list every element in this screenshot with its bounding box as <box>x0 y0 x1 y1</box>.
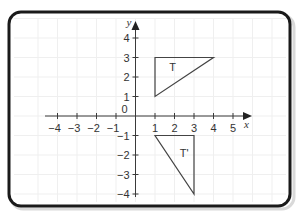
triangle-label-t: T <box>169 61 176 73</box>
y-tick-label: −2 <box>117 149 130 161</box>
x-axis-label: x <box>243 118 249 130</box>
y-tick-label: 3 <box>123 52 129 64</box>
x-tick-label: 4 <box>210 122 216 134</box>
x-tick-label: 3 <box>191 122 197 134</box>
x-tick-label: −3 <box>68 122 81 134</box>
x-tick-label: 2 <box>171 122 177 134</box>
frame-border <box>9 12 290 206</box>
y-tick-label: −1 <box>117 130 130 142</box>
x-tick-label: 5 <box>230 122 236 134</box>
y-axis-label: y <box>126 16 132 28</box>
y-tick-label: 1 <box>123 91 129 103</box>
y-tick-label: −4 <box>117 188 130 200</box>
coordinate-plot: −4−3−2−1123454321−1−2−3−4 TT' x y 0 <box>0 0 306 220</box>
x-tick-label: −4 <box>48 122 61 134</box>
y-tick-label: 2 <box>123 71 129 83</box>
y-tick-label: 4 <box>123 32 129 44</box>
triangle-label-t-prime: T' <box>180 147 189 159</box>
x-tick-label: 1 <box>152 122 158 134</box>
x-tick-label: −2 <box>87 122 100 134</box>
y-tick-label: −3 <box>117 169 130 181</box>
origin-label: 0 <box>121 103 127 115</box>
